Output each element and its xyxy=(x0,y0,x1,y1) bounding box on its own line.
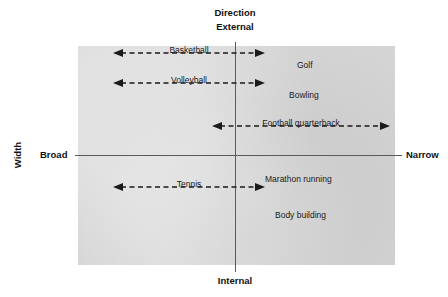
vertical-axis-top-label: External xyxy=(216,22,254,32)
point-item-golf: Golf xyxy=(297,61,313,70)
quadrant-diagram: Direction External Internal Width Broad … xyxy=(0,0,448,297)
double-arrow-icon xyxy=(113,42,265,64)
horizontal-axis-line xyxy=(75,155,402,156)
arrow-item-basketball: Basketball xyxy=(113,42,265,64)
horizontal-axis-left-label: Broad xyxy=(40,150,67,160)
double-arrow-icon xyxy=(113,176,265,198)
arrow-item-volleyball: Volleyball xyxy=(113,72,265,94)
vertical-axis-title: Direction xyxy=(214,8,255,18)
arrow-item-tennis: Tennis xyxy=(113,176,265,198)
double-arrow-icon xyxy=(212,115,390,137)
arrow-item-football-quarterback: Football quarterback xyxy=(212,115,390,137)
point-item-body-building: Body building xyxy=(275,211,326,220)
double-arrow-icon xyxy=(113,72,265,94)
point-item-bowling: Bowling xyxy=(289,91,319,100)
point-item-marathon-running: Marathon running xyxy=(265,175,332,184)
horizontal-axis-right-label: Narrow xyxy=(406,150,439,160)
vertical-axis-bottom-label: Internal xyxy=(218,276,252,286)
horizontal-axis-title: Width xyxy=(13,142,23,168)
